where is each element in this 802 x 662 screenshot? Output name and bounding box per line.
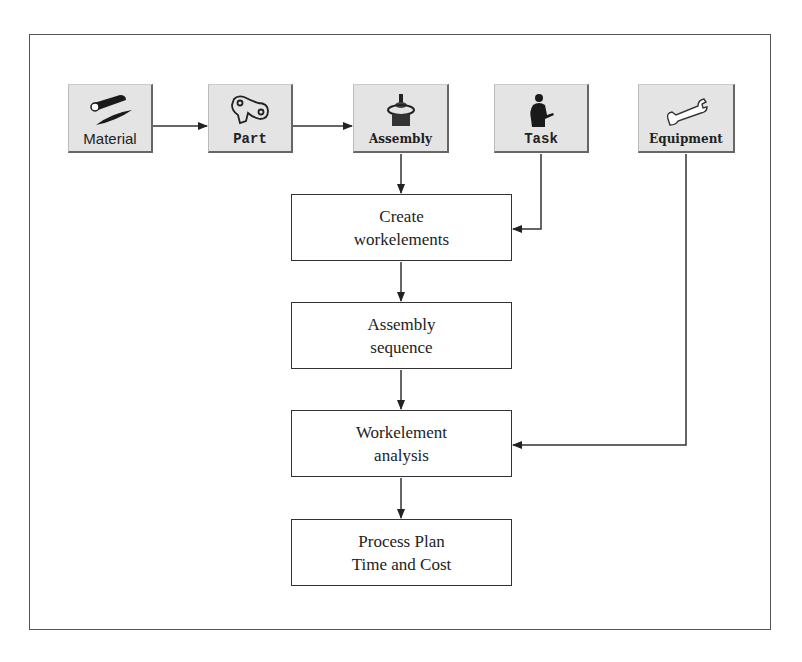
part-label: Part <box>233 131 267 147</box>
process-plan-step: Process Plan Time and Cost <box>291 519 512 586</box>
equipment-label: Equipment <box>649 131 723 147</box>
step-line-2: Time and Cost <box>352 553 452 576</box>
assembly-button[interactable]: Assembly <box>353 84 449 153</box>
step-line-2: sequence <box>370 336 432 359</box>
material-button[interactable]: Material <box>68 84 153 153</box>
task-button[interactable]: Task <box>494 84 589 153</box>
step-line-1: Assembly <box>368 313 436 336</box>
task-label: Task <box>524 131 558 147</box>
equipment-button[interactable]: Equipment <box>638 84 735 153</box>
step-line-1: Create <box>379 205 423 228</box>
part-icon <box>226 93 274 129</box>
part-button[interactable]: Part <box>208 84 293 153</box>
step-line-2: workelements <box>354 228 449 251</box>
material-label: Material <box>83 131 136 147</box>
workelement-analysis-step: Workelement analysis <box>291 410 512 477</box>
step-line-1: Process Plan <box>358 530 444 553</box>
material-bar-icon <box>86 93 134 129</box>
assembly-label: Assembly <box>369 131 432 147</box>
assembly-icon <box>377 93 425 129</box>
worker-icon <box>517 93 565 129</box>
step-line-1: Workelement <box>356 421 447 444</box>
wrench-icon <box>662 93 710 129</box>
assembly-sequence-step: Assembly sequence <box>291 302 512 369</box>
step-line-2: analysis <box>374 444 429 467</box>
create-workelements-step: Create workelements <box>291 194 512 261</box>
